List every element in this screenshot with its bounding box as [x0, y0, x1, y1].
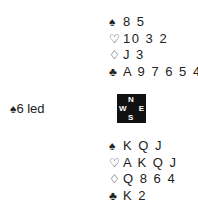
- south-spades: ♠K Q J: [109, 138, 178, 155]
- north-hand: ♠8 5 ♡10 3 2 ♢J 3 ♣A 9 7 6 5 4: [109, 14, 198, 80]
- diamond-icon: ♢: [109, 48, 123, 64]
- diamond-icon: ♢: [109, 172, 123, 188]
- south-clubs: ♣K 2: [109, 188, 178, 205]
- compass-west: W: [119, 104, 127, 113]
- compass-diagram: N W E S: [117, 94, 146, 123]
- opening-lead: ♠6 led: [10, 101, 45, 116]
- north-diamonds: ♢J 3: [109, 47, 198, 64]
- compass-north: N: [128, 95, 134, 104]
- heart-icon: ♡: [109, 156, 123, 172]
- north-spades: ♠8 5: [109, 14, 198, 31]
- spade-icon: ♠: [109, 15, 123, 31]
- south-hearts: ♡A K Q J: [109, 155, 178, 172]
- south-diamonds: ♢Q 8 6 4: [109, 171, 178, 188]
- club-icon: ♣: [109, 189, 123, 205]
- heart-icon: ♡: [109, 32, 123, 48]
- north-clubs: ♣A 9 7 6 5 4: [109, 64, 198, 81]
- south-hand: ♠K Q J ♡A K Q J ♢Q 8 6 4 ♣K 2: [109, 138, 178, 204]
- compass-east: E: [139, 104, 144, 113]
- north-hearts: ♡10 3 2: [109, 31, 198, 48]
- club-icon: ♣: [109, 65, 123, 81]
- spade-icon: ♠: [109, 139, 123, 155]
- compass-south: S: [128, 113, 133, 122]
